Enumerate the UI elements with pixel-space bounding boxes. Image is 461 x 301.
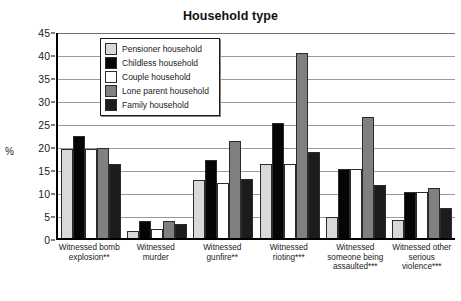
bar [374, 185, 386, 238]
y-tick-label: 45 [20, 27, 50, 39]
legend-swatch-icon [105, 85, 117, 97]
bar [127, 231, 139, 238]
bar [61, 149, 73, 238]
bar-group [323, 33, 389, 238]
legend-swatch-icon [105, 71, 117, 83]
y-tickmark [51, 171, 55, 172]
bar [175, 224, 187, 238]
x-tick-label: Witnessed other serious violence*** [389, 243, 456, 272]
legend-item: Childless household [105, 56, 215, 70]
legend-item: Family household [105, 98, 215, 112]
legend-item-label: Couple household [122, 72, 191, 82]
bar [350, 169, 362, 238]
y-axis-tick-labels: 454035302520151050 [18, 0, 50, 301]
bar [428, 188, 440, 238]
bar [326, 217, 338, 238]
bar [284, 164, 296, 238]
y-tick-label: 20 [20, 142, 50, 154]
y-tick-label: 0 [20, 234, 50, 246]
bar [97, 148, 109, 238]
bar [338, 169, 350, 238]
legend-item-label: Childless household [122, 58, 198, 68]
y-tickmark [51, 240, 55, 241]
y-tick-label: 25 [20, 119, 50, 131]
x-tick-label: Witnessed gunfire** [189, 243, 256, 272]
y-tickmark [51, 33, 55, 34]
legend-item-label: Lone parent household [122, 86, 209, 96]
x-tick-label: Witnessed bomb explosion** [56, 243, 123, 272]
y-tick-label: 35 [20, 73, 50, 85]
y-axis-label: % [5, 146, 14, 157]
bar [151, 229, 163, 238]
bar [139, 221, 151, 238]
y-tickmark [51, 125, 55, 126]
x-tick-label: Witnessed murder [123, 243, 190, 272]
x-tick-label: Witnessed someone being assaulted*** [322, 243, 389, 272]
bar [260, 164, 272, 238]
bar [241, 179, 253, 238]
y-tick-label: 40 [20, 50, 50, 62]
bar [440, 208, 452, 238]
legend-swatch-icon [105, 99, 117, 111]
y-tickmark [51, 148, 55, 149]
bar [217, 183, 229, 238]
bar [229, 141, 241, 238]
bar [73, 136, 85, 238]
legend-swatch-icon [105, 57, 117, 69]
y-tickmark [51, 217, 55, 218]
bar [109, 164, 121, 238]
legend-item: Lone parent household [105, 84, 215, 98]
bar [362, 117, 374, 238]
bar-group [257, 33, 323, 238]
bar [308, 152, 320, 238]
legend-item: Couple household [105, 70, 215, 84]
chart-legend: Pensioner householdChildless householdCo… [100, 38, 220, 116]
y-tickmark [51, 194, 55, 195]
chart-title: Household type [0, 9, 461, 23]
bar [392, 220, 404, 238]
y-tickmark [51, 56, 55, 57]
bar [205, 160, 217, 238]
bar-group [389, 33, 455, 238]
x-tick-label: Witnessed rioting*** [256, 243, 323, 272]
legend-item-label: Pensioner household [122, 44, 202, 54]
legend-item-label: Family household [122, 100, 189, 110]
y-tick-label: 10 [20, 188, 50, 200]
legend-swatch-icon [105, 43, 117, 55]
bar [296, 53, 308, 238]
bar [416, 192, 428, 238]
y-tick-label: 5 [20, 211, 50, 223]
bar [85, 149, 97, 238]
bar [163, 221, 175, 238]
x-axis-tick-labels: Witnessed bomb explosion**Witnessed murd… [56, 243, 455, 272]
y-tick-label: 15 [20, 165, 50, 177]
bar [404, 192, 416, 238]
y-tickmark [51, 79, 55, 80]
bar [272, 123, 284, 238]
y-tickmark [51, 102, 55, 103]
bar [193, 180, 205, 238]
y-tick-label: 30 [20, 96, 50, 108]
bar-chart: Household type % 454035302520151050 Pens… [0, 0, 461, 301]
legend-item: Pensioner household [105, 42, 215, 56]
